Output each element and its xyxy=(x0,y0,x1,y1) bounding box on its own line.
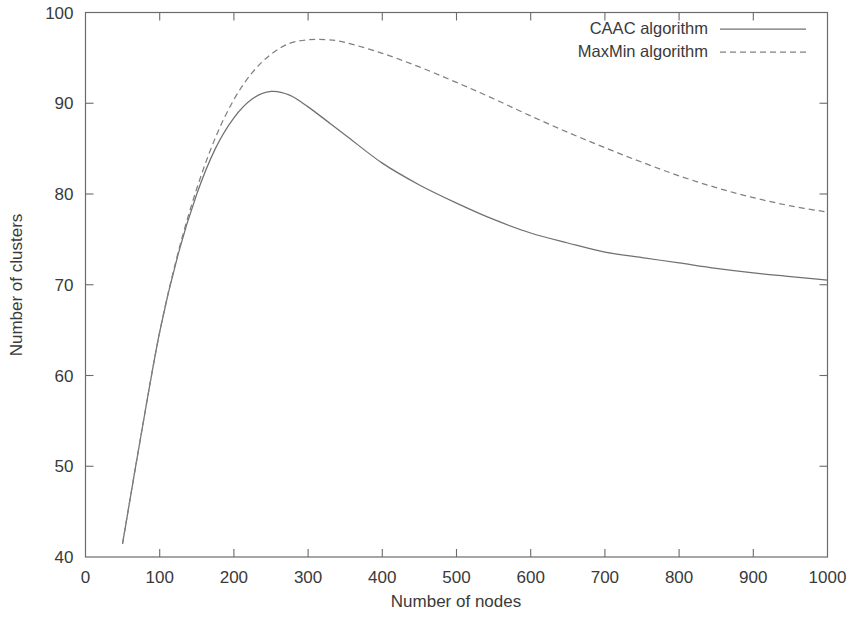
x-tick-label: 200 xyxy=(220,568,248,587)
chart-background xyxy=(0,0,855,622)
y-tick-label: 60 xyxy=(55,367,74,386)
x-tick-label: 600 xyxy=(517,568,545,587)
y-tick-label: 100 xyxy=(45,4,73,23)
y-tick-label: 70 xyxy=(55,276,74,295)
x-tick-label: 800 xyxy=(665,568,693,587)
legend-label: CAAC algorithm xyxy=(590,19,708,37)
x-axis-title: Number of nodes xyxy=(391,592,521,611)
y-tick-label: 90 xyxy=(55,94,74,113)
x-tick-label: 300 xyxy=(294,568,322,587)
x-tick-label: 400 xyxy=(368,568,396,587)
y-tick-label: 80 xyxy=(55,185,74,204)
x-tick-label: 100 xyxy=(146,568,174,587)
legend-label: MaxMin algorithm xyxy=(578,42,708,60)
x-tick-label: 900 xyxy=(739,568,767,587)
line-chart: 01002003004005006007008009001000 4050607… xyxy=(0,0,855,622)
x-tick-label: 0 xyxy=(81,568,90,587)
chart-figure: 01002003004005006007008009001000 4050607… xyxy=(0,0,855,622)
x-tick-label: 700 xyxy=(591,568,619,587)
x-tick-label: 500 xyxy=(442,568,470,587)
y-tick-label: 50 xyxy=(55,457,74,476)
x-tick-label: 1000 xyxy=(809,568,847,587)
y-axis-title: Number of clusters xyxy=(7,214,26,357)
y-tick-label: 40 xyxy=(55,548,74,567)
